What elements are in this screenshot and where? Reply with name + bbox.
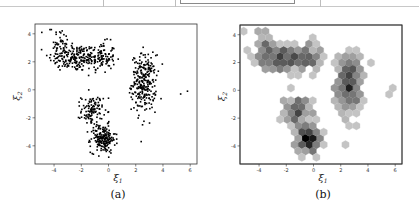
scatter-point: [153, 65, 155, 67]
scatter-point: [155, 79, 157, 81]
scatter-point: [99, 118, 101, 120]
scatter-point: [85, 115, 87, 117]
scatter-point: [66, 66, 68, 68]
scatter-point: [86, 122, 88, 124]
scatter-point: [106, 142, 108, 144]
scatter-point: [71, 45, 73, 47]
scatter-point: [66, 63, 68, 65]
scatter-point: [76, 47, 78, 49]
scatter-point: [66, 47, 68, 49]
scatter-point: [76, 65, 78, 67]
scatter-point: [144, 64, 146, 66]
scatter-point: [89, 145, 91, 147]
scatter-point: [88, 60, 90, 62]
scatter-point: [93, 66, 95, 68]
scatter-point: [80, 52, 82, 54]
scatter-point: [95, 72, 97, 74]
scatter-point: [88, 75, 90, 77]
scatter-point: [63, 61, 65, 63]
scatter-point: [150, 62, 152, 64]
scatter-point: [50, 54, 52, 56]
x-axis-label: ξ1: [318, 172, 327, 184]
scatter-point: [75, 59, 77, 61]
scatter-point: [117, 58, 119, 60]
scatter-point: [107, 135, 109, 137]
scatter-point: [86, 49, 88, 51]
scatter-point: [93, 112, 95, 114]
scatter-point: [155, 91, 157, 93]
scatter-point: [89, 111, 91, 113]
y-tick-label: 4: [28, 31, 31, 37]
scatter-point: [57, 53, 59, 55]
scatter-point: [139, 66, 141, 68]
scatter-point: [76, 53, 78, 55]
scatter-point: [93, 127, 95, 129]
scatter-point: [73, 53, 75, 55]
scatter-point: [137, 105, 139, 107]
scatter-point: [116, 138, 118, 140]
scatter-point: [96, 107, 98, 109]
scatter-point: [101, 140, 103, 142]
scatter-point: [134, 77, 136, 79]
scatter-point: [108, 97, 110, 99]
scatter-point: [88, 89, 90, 91]
scatter-point: [148, 97, 150, 99]
scatter-point: [90, 118, 92, 120]
scatter-point: [76, 57, 78, 59]
scatter-point: [129, 92, 131, 94]
x-tick-label: 4: [161, 167, 164, 173]
scatter-point: [106, 38, 108, 40]
scatter-point: [113, 139, 115, 141]
scatter-point: [55, 62, 57, 64]
scatter-point: [116, 134, 118, 136]
scatter-point: [108, 147, 110, 149]
scatter-point: [107, 56, 109, 58]
scatter-point: [143, 120, 145, 122]
y-tick-label: 2: [233, 59, 236, 65]
scatter-point: [144, 85, 146, 87]
scatter-point: [89, 152, 91, 154]
scatter-point: [83, 105, 85, 107]
x-tick-label: 6: [189, 167, 192, 173]
scatter-point: [65, 64, 67, 66]
scatter-point: [79, 47, 81, 49]
x-tick-label: 4: [366, 167, 369, 173]
scatter-point: [67, 65, 69, 67]
scatter-point: [78, 117, 80, 119]
scatter-point: [56, 42, 58, 44]
scatter-point: [154, 111, 156, 113]
scatter-point: [103, 135, 105, 137]
scatter-point: [88, 114, 90, 116]
scatter-point: [96, 124, 98, 126]
x-tick-label: -4: [257, 167, 262, 173]
scatter-point: [91, 63, 93, 65]
scatter-point: [96, 149, 98, 151]
scatter-point: [83, 50, 85, 52]
scatter-point: [106, 131, 108, 133]
scatter-point: [79, 49, 81, 51]
scatter-point: [101, 118, 103, 120]
scatter-point: [85, 56, 87, 58]
scatter-point: [57, 47, 59, 49]
scatter-point: [74, 56, 76, 58]
scatter-point: [62, 51, 64, 53]
scatter-point: [85, 47, 87, 49]
scatter-point: [153, 81, 155, 83]
scatter-point: [72, 52, 74, 54]
scatter-point: [95, 126, 97, 128]
scatter-point: [83, 48, 85, 50]
scatter-point: [94, 61, 96, 63]
scatter-point: [143, 68, 145, 70]
scatter-point: [147, 68, 149, 70]
scatter-point: [64, 65, 66, 67]
scatter-point: [105, 151, 107, 153]
scatter-point: [109, 133, 111, 135]
scatter-point: [55, 44, 57, 46]
scatter-point: [88, 48, 90, 50]
scatter-point: [141, 93, 143, 95]
scatter-point: [133, 57, 135, 59]
scatter-point: [155, 55, 157, 57]
scatter-point: [102, 149, 104, 151]
scatter-point: [144, 89, 146, 91]
scatter-point: [132, 59, 134, 61]
